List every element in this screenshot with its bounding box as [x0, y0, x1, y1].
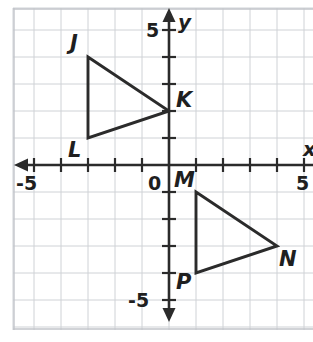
triangle-mnp [196, 192, 277, 273]
vertex-label-p: P [176, 272, 191, 293]
vertex-label-j: J [70, 33, 78, 54]
x-tick-label-5: 5 [296, 174, 309, 193]
y-tick-label-5: 5 [146, 21, 159, 40]
vertex-label-n: N [279, 249, 297, 270]
coordinate-plane-figure: 5 y x -5 0 5 -5 J K L M N P [0, 0, 313, 342]
y-axis-up-arrow [163, 8, 176, 22]
y-tick-label-neg5: -5 [128, 291, 149, 310]
x-axis-label: x [303, 139, 313, 159]
y-axis-down-arrow [163, 308, 176, 322]
vertex-label-l: L [68, 140, 81, 161]
graph-canvas [0, 0, 313, 342]
triangle-jkl [88, 57, 169, 138]
vertex-label-m: M [174, 170, 195, 191]
y-axis-label: y [178, 12, 191, 32]
origin-label: 0 [148, 174, 161, 193]
x-tick-label-neg5: -5 [16, 174, 37, 193]
x-axis [14, 158, 313, 172]
vertex-label-k: K [176, 90, 192, 111]
x-axis-left-arrow [14, 159, 28, 172]
